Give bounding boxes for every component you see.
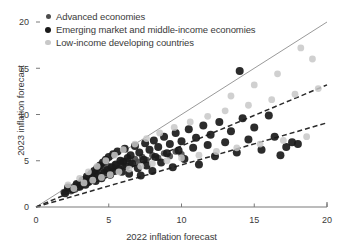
data-point bbox=[120, 146, 127, 153]
data-point bbox=[315, 85, 322, 92]
data-point bbox=[245, 102, 252, 109]
data-point bbox=[265, 111, 273, 119]
data-point bbox=[250, 123, 258, 131]
y-axis-title: 2023 inflation forecast bbox=[15, 31, 26, 191]
x-tick-label: 10 bbox=[176, 215, 186, 225]
data-point bbox=[228, 93, 235, 100]
data-points bbox=[60, 45, 321, 198]
data-point bbox=[204, 141, 212, 149]
data-point bbox=[257, 141, 264, 148]
data-point bbox=[107, 171, 114, 178]
data-point bbox=[164, 157, 171, 164]
x-tick-label: 15 bbox=[249, 215, 259, 225]
data-point bbox=[94, 163, 101, 170]
data-point bbox=[89, 177, 96, 184]
data-point bbox=[154, 143, 162, 151]
data-point bbox=[127, 151, 135, 159]
data-point bbox=[85, 168, 92, 175]
data-point bbox=[189, 144, 197, 152]
data-point bbox=[280, 137, 287, 144]
data-point bbox=[175, 147, 183, 155]
data-point bbox=[196, 152, 203, 159]
data-point bbox=[244, 135, 252, 143]
y-tick-label: 0 bbox=[24, 202, 29, 212]
data-point bbox=[65, 181, 72, 188]
data-point bbox=[126, 166, 133, 173]
series-1 bbox=[61, 67, 302, 197]
data-point bbox=[156, 130, 163, 137]
data-point bbox=[81, 180, 88, 187]
x-tick-label: 5 bbox=[106, 215, 111, 225]
data-point bbox=[192, 134, 200, 142]
data-point bbox=[171, 124, 178, 131]
data-point bbox=[309, 56, 316, 63]
data-point bbox=[178, 155, 185, 162]
data-point bbox=[178, 137, 186, 145]
data-point bbox=[276, 151, 284, 159]
y-tick-label: 20 bbox=[19, 17, 29, 27]
fit-line-lower bbox=[36, 123, 327, 207]
data-point bbox=[102, 157, 109, 164]
data-point bbox=[227, 127, 235, 135]
data-point bbox=[268, 96, 275, 103]
data-point bbox=[143, 135, 150, 142]
data-point bbox=[169, 163, 177, 171]
data-point bbox=[163, 149, 171, 157]
data-point bbox=[204, 113, 211, 120]
data-point bbox=[303, 133, 310, 140]
data-point bbox=[222, 107, 229, 114]
data-point bbox=[233, 144, 240, 151]
data-point bbox=[187, 119, 194, 126]
data-point bbox=[221, 138, 229, 146]
data-point bbox=[239, 114, 247, 122]
data-point bbox=[116, 168, 123, 175]
data-point bbox=[199, 122, 207, 130]
data-point bbox=[137, 172, 145, 180]
data-point bbox=[274, 70, 281, 77]
data-point bbox=[207, 131, 215, 139]
data-point bbox=[111, 152, 118, 159]
x-tick-label: 20 bbox=[322, 215, 332, 225]
data-point bbox=[185, 125, 193, 133]
plot-canvas: 0510152005101520 bbox=[0, 0, 343, 251]
data-point bbox=[292, 91, 299, 98]
data-point bbox=[166, 140, 174, 148]
data-point bbox=[251, 82, 258, 89]
data-point bbox=[132, 141, 139, 148]
data-point bbox=[151, 153, 159, 161]
data-point bbox=[297, 45, 304, 52]
data-point bbox=[149, 160, 156, 167]
data-point bbox=[195, 160, 203, 168]
data-point bbox=[215, 118, 223, 126]
data-point bbox=[294, 140, 302, 148]
x-tick-label: 0 bbox=[33, 215, 38, 225]
scatter-chart: 0510152005101520 Advanced economies Emer… bbox=[0, 0, 343, 251]
data-point bbox=[70, 185, 77, 192]
data-point bbox=[145, 146, 153, 154]
data-point bbox=[236, 67, 244, 75]
data-point bbox=[137, 163, 144, 170]
data-point bbox=[271, 133, 279, 141]
data-point bbox=[135, 148, 143, 156]
data-point bbox=[98, 174, 105, 181]
data-point bbox=[213, 148, 220, 155]
x-axis-title: 2022 inflation forecast bbox=[0, 231, 343, 242]
data-point bbox=[148, 167, 156, 175]
